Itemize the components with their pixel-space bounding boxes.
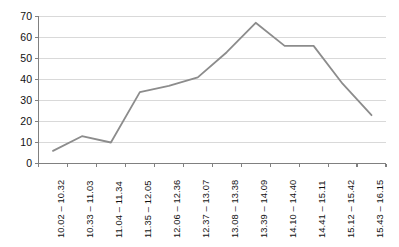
x-axis-tick-label: 12.37 – 13.07 bbox=[202, 179, 211, 237]
x-axis-tick-label: 14.41 – 15.11 bbox=[318, 180, 327, 237]
y-axis-tick-label: 50 bbox=[10, 53, 32, 64]
x-axis-tick-label: 15.12 – 15.42 bbox=[347, 179, 356, 237]
y-axis-tick-label: 70 bbox=[10, 11, 32, 22]
y-axis-tick-label: 10 bbox=[10, 137, 32, 148]
y-axis-tick-label: 60 bbox=[10, 32, 32, 43]
x-axis-tick-label: 13.08 – 13.38 bbox=[231, 179, 240, 237]
axes bbox=[39, 17, 387, 164]
x-axis-tick-label: 10.02 – 10.32 bbox=[57, 179, 66, 237]
x-axis-tick-label: 11.04 – 11.34 bbox=[115, 181, 124, 238]
y-axis-tick-label: 40 bbox=[10, 74, 32, 85]
y-axis-tick-label: 30 bbox=[10, 95, 32, 106]
x-axis-tick-label: 12.06 – 12.36 bbox=[173, 179, 182, 237]
x-axis-tick-label: 15.43 – 16.15 bbox=[376, 179, 385, 237]
x-axis-tick-label: 13.39 – 14.09 bbox=[260, 179, 269, 237]
gridlines bbox=[39, 17, 387, 143]
data-series-line bbox=[53, 23, 372, 151]
y-axis-tick-label: 20 bbox=[10, 116, 32, 127]
x-axis-tick-label: 14.10 – 14.40 bbox=[289, 179, 298, 237]
x-axis-tick-label: 11.35 – 12.05 bbox=[144, 180, 153, 237]
line-chart: 010203040506070 10.02 – 10.3210.33 – 11.… bbox=[0, 0, 399, 247]
y-axis-tick-label: 0 bbox=[10, 158, 32, 169]
x-axis-tick-label: 10.33 – 11.03 bbox=[86, 180, 95, 237]
